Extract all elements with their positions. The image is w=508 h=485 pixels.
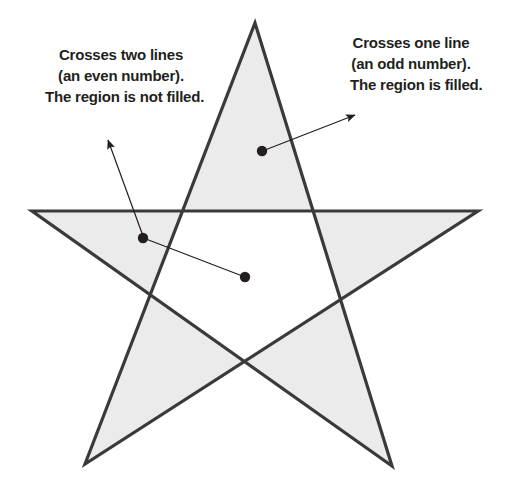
even-label-line-1: Crosses two lines: [45, 44, 197, 65]
odd-label-line-2: (an odd number).: [350, 53, 472, 74]
dot-center: [240, 272, 250, 282]
even-label-line-3: The region is not filled.: [45, 86, 197, 107]
crosses-two-lines-label: Crosses two lines (an even number). The …: [45, 44, 197, 107]
odd-label-line-3: The region is filled.: [350, 74, 472, 95]
even-label-line-2: (an even number).: [45, 65, 197, 86]
odd-label-line-1: Crosses one line: [350, 32, 472, 53]
crosses-one-line-label: Crosses one line (an odd number). The re…: [350, 32, 472, 95]
dot-left-arm: [138, 233, 148, 243]
dot-filled-region: [257, 146, 267, 156]
